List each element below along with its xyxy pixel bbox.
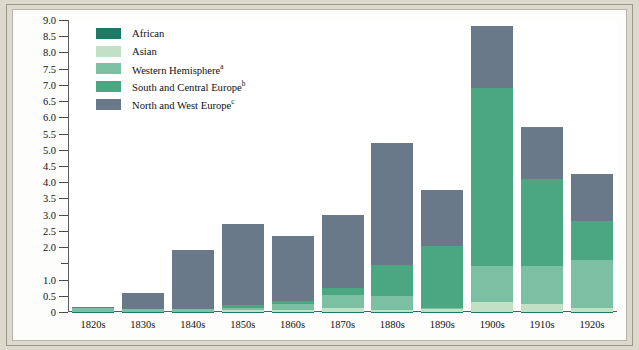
y-axis-tick: [59, 198, 68, 199]
y-axis-label: 7.5: [43, 63, 56, 74]
stacked-bar[interactable]: [571, 174, 613, 312]
stacked-bar[interactable]: [272, 236, 314, 312]
y-axis-label: 6.0: [43, 112, 56, 123]
bar-segment: [521, 266, 563, 303]
bar-segment: [521, 179, 563, 267]
stacked-bar[interactable]: [322, 215, 364, 312]
bar-segment: [421, 190, 463, 245]
legend-item[interactable]: North and West Europec: [96, 95, 245, 113]
bar-segment: [272, 236, 314, 301]
y-axis-label: 0.5: [43, 290, 56, 301]
y-axis-label: 3.0: [43, 209, 56, 220]
y-axis-tick: [59, 69, 68, 70]
y-axis-tick: [59, 231, 68, 232]
y-axis-label: 2.5: [43, 225, 56, 236]
y-axis-tick: [59, 101, 68, 102]
stacked-bar[interactable]: [222, 224, 264, 312]
bar-segment: [122, 293, 164, 309]
y-axis-tick: [59, 117, 68, 118]
legend-swatch-icon: [96, 28, 121, 39]
y-axis-tick: [59, 215, 68, 216]
bar-segment: [571, 260, 613, 309]
y-axis-label: 8.0: [43, 47, 56, 58]
legend-item[interactable]: Western Hemispherea: [96, 60, 245, 78]
legend-item[interactable]: South and Central Europeb: [96, 78, 245, 96]
legend-footnote-marker: b: [242, 80, 246, 88]
bar-segment: [322, 215, 364, 288]
stacked-bar[interactable]: [172, 250, 214, 312]
bar-segment: [471, 88, 513, 266]
stacked-bar[interactable]: [521, 127, 563, 312]
y-axis-tick: [59, 247, 68, 248]
stacked-bar[interactable]: [421, 190, 463, 312]
stacked-bar[interactable]: [371, 143, 413, 312]
legend-label: African: [132, 28, 164, 39]
legend-swatch-icon: [96, 99, 121, 110]
legend-footnote-marker: c: [231, 98, 234, 106]
bar-segment: [421, 246, 463, 308]
y-axis-label: 0: [51, 307, 56, 318]
y-axis-tick: [59, 150, 68, 151]
bar-segment: [322, 295, 364, 308]
bar-segment: [172, 250, 214, 308]
y-axis-label: 7.0: [43, 79, 56, 90]
legend-footnote-marker: a: [220, 63, 223, 71]
y-axis-label: 4.5: [43, 161, 56, 172]
legend-item[interactable]: Asian: [96, 43, 245, 61]
x-axis-label: 1920s: [562, 319, 622, 330]
y-axis-label: 6.5: [43, 96, 56, 107]
y-axis-tick: [59, 134, 68, 135]
legend-label: North and West Europec: [132, 98, 234, 111]
bar-segment: [571, 221, 613, 260]
bar-segment: [371, 296, 413, 310]
y-axis-tick: [59, 85, 68, 86]
bar-segment: [471, 266, 513, 302]
y-axis-label: 8.5: [43, 31, 56, 42]
y-axis-tick: [61, 263, 68, 264]
y-axis-label: 5.0: [43, 144, 56, 155]
bar-segment: [521, 304, 563, 312]
bar-segment: [371, 265, 413, 296]
bar-segment: [471, 302, 513, 312]
y-axis-tick: [59, 312, 68, 313]
stacked-bar[interactable]: [122, 293, 164, 312]
y-axis-label: 2.0: [43, 242, 56, 253]
legend-swatch-icon: [96, 46, 121, 57]
y-axis-label: 5.5: [43, 128, 56, 139]
stacked-bar[interactable]: [471, 26, 513, 312]
y-axis-tick: [59, 36, 68, 37]
y-axis-tick: [59, 280, 68, 281]
legend-label: Asian: [132, 46, 157, 57]
y-axis-label: 3.5: [43, 193, 56, 204]
y-axis-label: 4.0: [43, 177, 56, 188]
y-axis-tick: [59, 166, 68, 167]
bar-segment: [222, 224, 264, 304]
legend-label: South and Central Europeb: [132, 80, 245, 93]
bar-segment: [471, 26, 513, 88]
chart-legend: AfricanAsianWestern HemisphereaSouth and…: [96, 25, 245, 113]
bar-segment: [322, 288, 364, 295]
bar-segment: [521, 127, 563, 179]
y-axis-label: 9.0: [43, 15, 56, 26]
legend-item[interactable]: African: [96, 25, 245, 43]
y-axis-tick: [59, 20, 68, 21]
legend-swatch-icon: [96, 63, 121, 74]
y-axis-tick: [59, 182, 68, 183]
y-axis-tick: [59, 52, 68, 53]
bar-segment: [571, 174, 613, 221]
y-axis-label: 1.0: [43, 274, 56, 285]
legend-swatch-icon: [96, 81, 121, 92]
y-axis-tick: [59, 296, 68, 297]
stacked-bar[interactable]: [72, 307, 114, 312]
chart-page: Number of Immigrants per Decade (in mill…: [0, 0, 639, 350]
legend-label: Western Hemispherea: [132, 63, 223, 76]
bar-segment: [371, 143, 413, 264]
